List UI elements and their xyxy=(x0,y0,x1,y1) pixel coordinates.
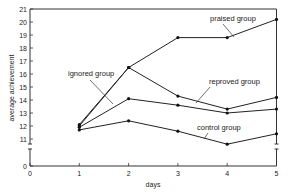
series-annotations: praised groupignored groupreproved group… xyxy=(68,14,260,139)
y-tick-label: 15 xyxy=(19,84,27,91)
data-point xyxy=(226,143,229,146)
data-point xyxy=(275,96,278,99)
control-group-label: control group xyxy=(197,123,241,132)
y-tick-label: 12 xyxy=(19,123,27,130)
x-tick-label: 1 xyxy=(77,170,81,177)
y-tick-label: 11 xyxy=(20,136,27,143)
x-tick-label: 0 xyxy=(28,170,32,177)
data-point xyxy=(226,111,229,114)
data-point xyxy=(176,104,179,107)
leader-line xyxy=(196,87,210,103)
y-tick-label: 14 xyxy=(19,97,27,104)
x-axis-ticks: 012345 xyxy=(28,163,279,177)
x-tick-label: 2 xyxy=(127,170,131,177)
x-tick-label: 3 xyxy=(176,170,180,177)
series-control-group xyxy=(78,119,278,146)
reproved-group-label: reproved group xyxy=(209,77,260,86)
y-tick-label: 18 xyxy=(19,45,27,52)
data-point xyxy=(127,119,130,122)
y-tick-label: 16 xyxy=(19,71,27,78)
x-tick-label: 4 xyxy=(225,170,229,177)
data-point xyxy=(78,128,81,131)
y-axis-title: average achievement xyxy=(8,54,16,121)
series-ignored-group xyxy=(78,97,278,129)
data-point xyxy=(275,18,278,21)
data-point xyxy=(127,66,130,69)
leader-line xyxy=(223,24,234,37)
data-point xyxy=(127,97,130,100)
x-tick-label: 5 xyxy=(275,170,279,177)
praised-group-label: praised group xyxy=(210,14,256,23)
line-chart: 01112131415161718192021 012345 praised g… xyxy=(0,0,288,194)
y-tick-label: 17 xyxy=(19,58,27,65)
data-point xyxy=(226,108,229,111)
data-point xyxy=(275,108,278,111)
data-point xyxy=(176,95,179,98)
data-point xyxy=(176,130,179,133)
ignored-group-label: ignored group xyxy=(68,69,114,78)
y-axis-ticks: 01112131415161718192021 xyxy=(19,6,33,170)
y-tick-label: 19 xyxy=(19,32,27,39)
data-point xyxy=(176,36,179,39)
y-tick-label: 0 xyxy=(23,163,27,170)
data-point xyxy=(226,36,229,39)
y-tick-label: 20 xyxy=(19,19,27,26)
x-axis-title: days xyxy=(146,181,161,189)
data-point xyxy=(275,132,278,135)
y-tick-label: 21 xyxy=(19,6,27,13)
y-tick-label: 13 xyxy=(19,110,27,117)
